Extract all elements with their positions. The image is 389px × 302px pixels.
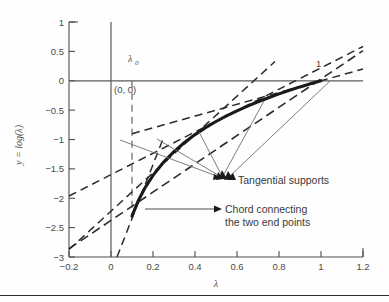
- x-tick-label: 0.4: [188, 261, 201, 272]
- log-lambda-chart: 1 0.5 0 −0.5 −1 −1.5 −2 −2.5 −3 −0.2 0 0…: [0, 0, 389, 302]
- y-tick-label: 0.5: [51, 46, 64, 57]
- y-tick-label: −2: [53, 193, 64, 204]
- x-tick-label: 0.2: [146, 261, 159, 272]
- chord-label-line-2: the two end points: [225, 216, 310, 228]
- x-tick-label: 1.2: [356, 261, 369, 272]
- x-tick-label: −0.2: [60, 261, 79, 272]
- lambda0-label: λ: [127, 53, 133, 64]
- x-tick-label: 0.6: [230, 261, 243, 272]
- y-tick-label: 1: [59, 17, 64, 28]
- y-tick-label: −1: [53, 134, 64, 145]
- figure-container: 1 0.5 0 −0.5 −1 −1.5 −2 −2.5 −3 −0.2 0 0…: [0, 0, 389, 302]
- chord-label-line-1: Chord connecting: [225, 203, 307, 215]
- y-axis-title: y = log(λ): [13, 124, 25, 166]
- one-point-label: 1: [316, 58, 321, 69]
- lambda0-subscript: 0: [135, 59, 139, 67]
- y-tick-label: 0: [59, 75, 64, 86]
- y-tick-label: −1.5: [45, 163, 64, 174]
- tangential-supports-label: Tangential supports: [238, 174, 329, 186]
- origin-point-label: (0, 0): [114, 84, 136, 95]
- y-tick-label: −0.5: [45, 105, 64, 116]
- y-tick-label: −2.5: [45, 222, 64, 233]
- x-tick-label: 0: [108, 261, 113, 272]
- x-axis-title: λ: [213, 278, 219, 289]
- x-tick-label: 0.8: [272, 261, 285, 272]
- x-tick-label: 1: [318, 261, 323, 272]
